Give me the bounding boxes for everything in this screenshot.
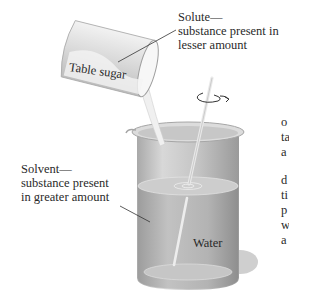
water-label: Water: [193, 236, 223, 250]
solvent-label: Solvent— substance present in greater am…: [21, 162, 109, 204]
body-text-line: ta: [281, 130, 289, 145]
body-text-line: a: [281, 233, 289, 248]
solute-label: Solute— substance present in lesser amou…: [178, 10, 279, 52]
body-text-line: w: [281, 218, 289, 233]
solute-desc-line1: substance present in: [178, 24, 279, 38]
solvent-desc-line1: substance present: [21, 176, 109, 190]
body-text-line: ti: [281, 188, 289, 203]
body-text-line: p: [281, 203, 289, 218]
body-text-line: d: [281, 173, 289, 188]
body-text-line: a: [281, 145, 289, 160]
sugar-cup: [57, 20, 162, 99]
solvent-desc-line2: in greater amount: [21, 190, 109, 204]
solute-title: Solute—: [178, 10, 279, 24]
solute-desc-line2: lesser amount: [178, 38, 279, 52]
body-text-line: o: [281, 115, 289, 130]
solvent-title: Solvent—: [21, 162, 109, 176]
truncated-body-text: o ta a d ti p w a: [281, 115, 289, 248]
water: [138, 177, 238, 289]
rotation-arrow-icon: [197, 93, 229, 102]
